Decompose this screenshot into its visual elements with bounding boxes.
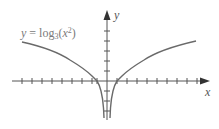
y-axis-label: y [114,9,119,21]
function-label-log: = log [26,26,54,40]
y-axis-arrow-icon [104,10,111,20]
y-axis [104,17,110,120]
function-label: y = log3(x2) [21,27,76,39]
function-label-close-paren: ) [72,26,76,40]
curve-right-branch [110,41,196,118]
x-axis-arrow-icon [200,78,210,85]
x-axis [12,78,204,84]
function-curve [22,41,196,118]
log-graph [0,0,219,129]
x-axis-label: x [205,86,210,98]
